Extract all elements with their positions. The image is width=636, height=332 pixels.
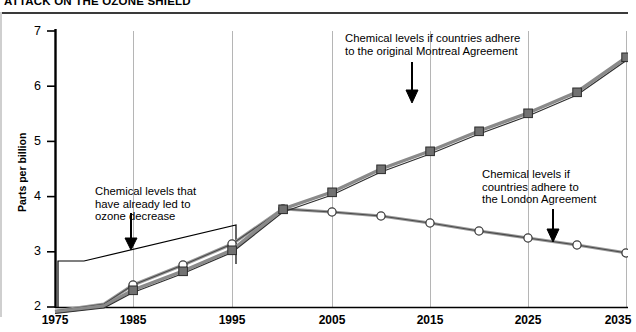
x-tick-1985: 1985 bbox=[103, 313, 163, 327]
series-london-line-dark bbox=[55, 209, 627, 311]
x-tick-2015: 2015 bbox=[400, 313, 460, 327]
x-tick-1995: 1995 bbox=[202, 313, 262, 327]
annotation-montreal: Chemical levels if countries adhere to t… bbox=[345, 32, 520, 57]
y-tick-6: 6 bbox=[25, 79, 41, 93]
x-tick-2035: 2035 bbox=[588, 313, 636, 327]
arrow-london bbox=[547, 209, 559, 242]
y-tick-3: 3 bbox=[25, 244, 41, 258]
historical-bracket bbox=[58, 225, 236, 307]
annotation-historical: Chemical levels that have already led to… bbox=[95, 185, 196, 223]
y-tick-7: 7 bbox=[25, 24, 41, 38]
x-tick-1975: 1975 bbox=[25, 313, 85, 327]
x-tick-2025: 2025 bbox=[498, 313, 558, 327]
y-tick-2: 2 bbox=[25, 299, 41, 313]
y-tick-4: 4 bbox=[25, 189, 41, 203]
annotation-london: Chemical levels if countries adhere to t… bbox=[482, 168, 596, 206]
x-tick-2005: 2005 bbox=[302, 313, 362, 327]
y-tick-5: 5 bbox=[25, 134, 41, 148]
arrow-montreal bbox=[406, 62, 418, 103]
series-london-line bbox=[55, 209, 627, 311]
